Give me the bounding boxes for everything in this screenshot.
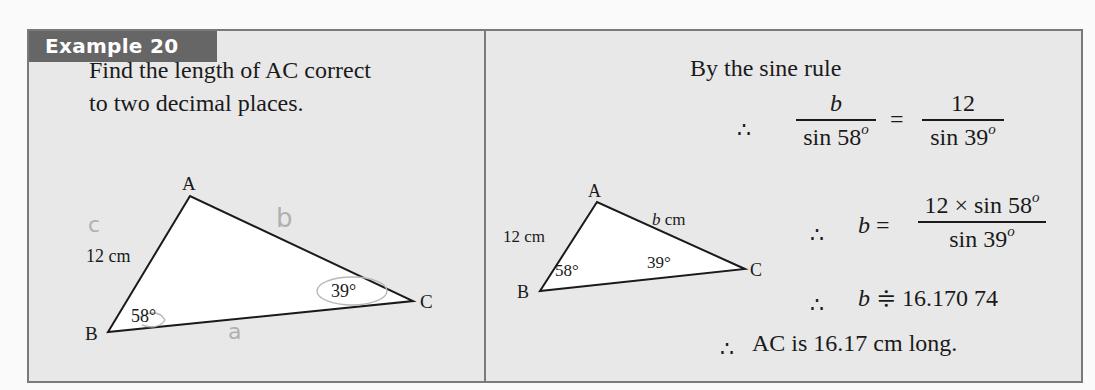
fraction-bar [918, 221, 1046, 223]
eq2-num: 12 × sin 58o [918, 190, 1046, 220]
angle-b-58-right: 58° [555, 261, 579, 280]
var-b: b [830, 90, 842, 116]
eq2-lhs: b = [858, 212, 890, 239]
eq3: b ≑ 16.170 74 [858, 284, 998, 312]
vertex-c-right: C [750, 260, 762, 280]
sin58-text: sin 58 [803, 124, 861, 150]
eq1-rhs-den: sin 39o [922, 122, 1004, 152]
therefore-symbol-2: ∴ [810, 222, 825, 248]
solution-intro: By the sine rule [690, 55, 841, 82]
vertex-a-right: A [588, 181, 601, 201]
side-var-b: b [652, 210, 661, 229]
vertex-b-right: B [517, 282, 529, 302]
conclusion-text: AC is 16.17 cm long. [752, 330, 957, 357]
side-unit-cm: cm [661, 210, 686, 229]
degree-mark: o [1007, 223, 1015, 239]
eq1-rhs-num: 12 [922, 88, 1004, 118]
var-b: b [858, 212, 870, 238]
therefore-symbol-4: ∴ [720, 336, 735, 362]
eq2-den: sin 39o [918, 224, 1046, 254]
eq2-fraction: 12 × sin 58o sin 39o [918, 190, 1046, 254]
eq1-lhs-den: sin 58o [796, 122, 876, 152]
sin39-text: sin 39 [949, 226, 1007, 252]
eq3-value: 16.170 74 [902, 285, 998, 311]
approx-equals-symbol: ≑ [876, 285, 896, 311]
eq1-equals: = [890, 106, 904, 133]
angle-c-39-right: 39° [647, 253, 671, 272]
eq1-lhs-fraction: b sin 58o [796, 88, 876, 152]
eq2-num-text: 12 × sin 58 [924, 192, 1032, 218]
side-label-12cm-right: 12 cm [503, 227, 545, 246]
side-label-bcm-right: b cm [652, 210, 686, 229]
eq1-rhs-fraction: 12 sin 39o [922, 88, 1004, 152]
eq2-equals: = [876, 212, 890, 238]
therefore-symbol-1: ∴ [737, 117, 752, 143]
var-b: b [858, 285, 870, 311]
degree-mark: o [861, 121, 869, 137]
degree-mark: o [988, 121, 996, 137]
sin39-text: sin 39 [930, 124, 988, 150]
eq1-lhs-num: b [796, 88, 876, 118]
therefore-symbol-3: ∴ [810, 292, 825, 318]
degree-mark: o [1032, 189, 1040, 205]
